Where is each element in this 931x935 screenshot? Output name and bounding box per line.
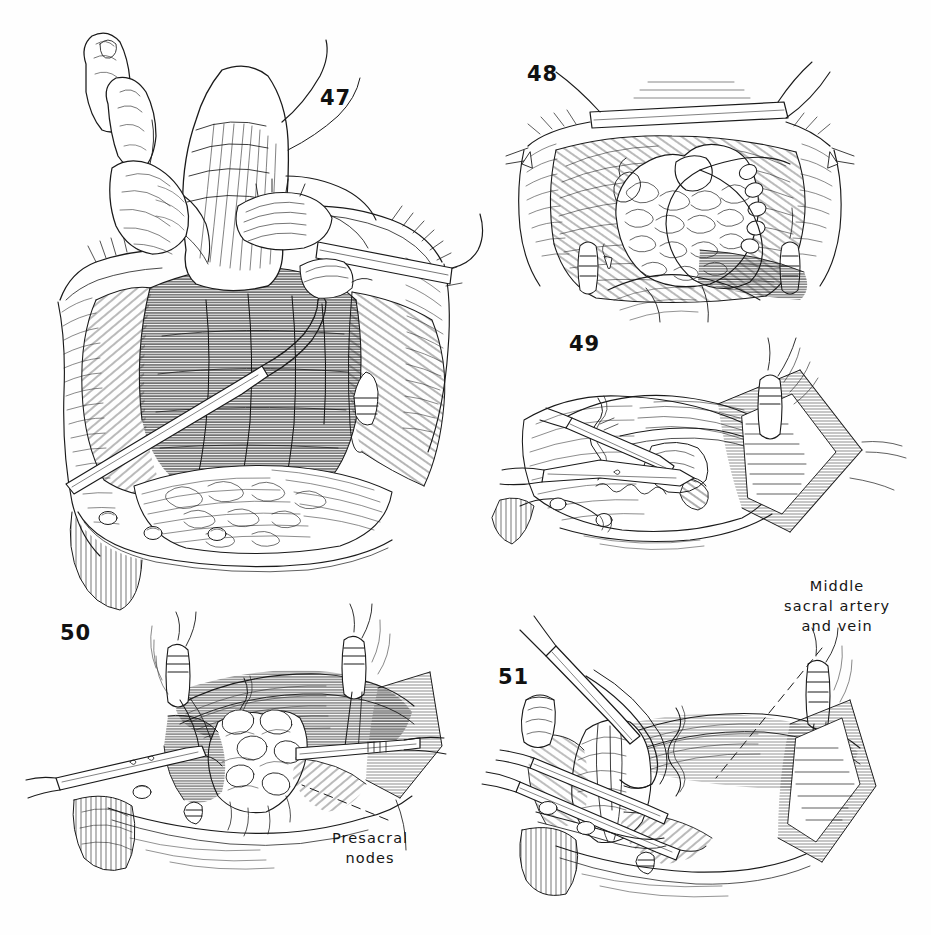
figure-47-illustration xyxy=(58,33,483,610)
figure-number-51: 51 xyxy=(498,665,529,689)
figure-51-illustration xyxy=(482,616,876,897)
figure-number-50: 50 xyxy=(60,621,91,645)
figure-48-illustration xyxy=(506,62,854,322)
figure-49-illustration xyxy=(492,338,906,550)
figure-number-48: 48 xyxy=(527,62,558,86)
plate-illustration xyxy=(0,0,931,935)
atlas-page: 47 48 49 50 51 Presacral nodes Middle sa… xyxy=(0,0,931,935)
annotation-presacral-nodes: Presacral nodes xyxy=(332,828,408,868)
figure-number-49: 49 xyxy=(569,332,600,356)
annotation-middle-sacral-vessels: Middle sacral artery and vein xyxy=(784,576,890,636)
figure-number-47: 47 xyxy=(320,86,351,110)
